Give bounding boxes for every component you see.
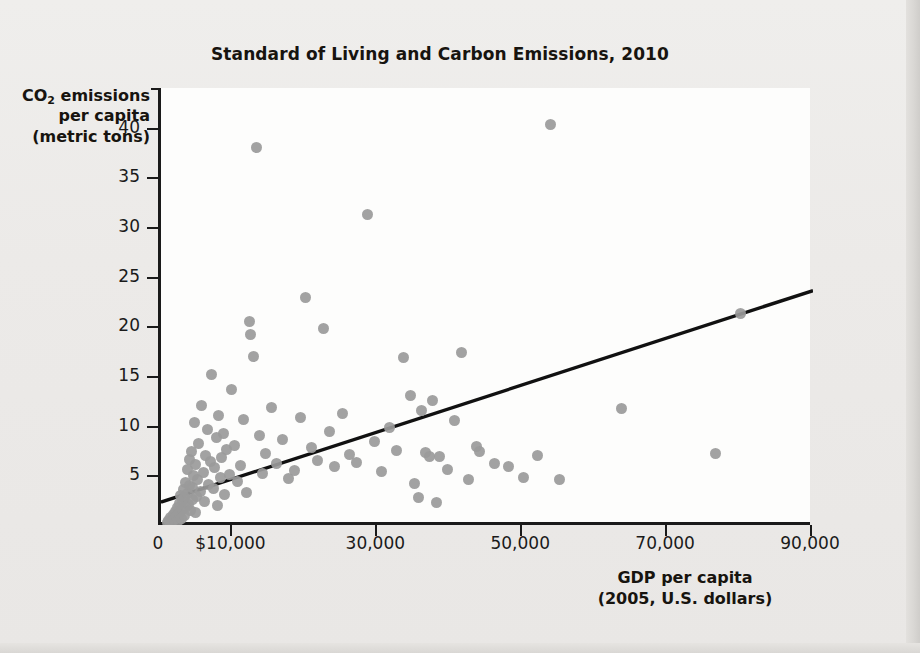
y-tick-mark: [147, 177, 158, 179]
scatter-point: [413, 492, 424, 503]
scatter-point: [213, 410, 224, 421]
scatter-point: [456, 347, 467, 358]
scatter-point: [226, 384, 237, 395]
scatter-point: [545, 119, 556, 130]
x-axis-title-line2: (2005, U.S. dollars): [598, 589, 773, 608]
scatter-point: [219, 489, 230, 500]
scatter-point: [289, 465, 300, 476]
scatter-point: [244, 316, 255, 327]
scatter-point: [518, 472, 529, 483]
scatter-point: [235, 460, 246, 471]
scatter-point: [245, 329, 256, 340]
scatter-point: [337, 408, 348, 419]
y-tick-mark: [147, 426, 158, 428]
x-tick-label: 50,000: [460, 533, 580, 553]
scatter-point: [229, 440, 240, 451]
scatter-point: [218, 428, 229, 439]
scatter-point: [398, 352, 409, 363]
scatter-point: [434, 451, 445, 462]
y-tick-label: 35: [96, 166, 140, 186]
x-tick-label: $10,000: [170, 533, 290, 553]
scatter-point: [362, 209, 373, 220]
scatter-point: [306, 442, 317, 453]
x-axis-title-line1: GDP per capita: [617, 568, 752, 587]
scatter-point: [189, 417, 200, 428]
chart-title: Standard of Living and Carbon Emissions,…: [0, 44, 880, 64]
scatter-point: [198, 467, 209, 478]
scatter-point: [324, 426, 335, 437]
co2-subscript: 2: [47, 94, 55, 107]
scatter-point: [503, 461, 514, 472]
scatter-point: [251, 142, 262, 153]
x-tick-label: 30,000: [315, 533, 435, 553]
scatter-point: [463, 474, 474, 485]
scatter-point: [616, 403, 627, 414]
scatter-point: [409, 478, 420, 489]
scatter-point: [384, 422, 395, 433]
scatter-point: [248, 351, 259, 362]
scatter-point: [449, 415, 460, 426]
scatter-point: [241, 487, 252, 498]
scatter-point: [442, 464, 453, 475]
y-tick-mark-minor: [151, 88, 158, 90]
y-tick-label: 30: [96, 216, 140, 236]
x-tick-label: 90,000: [750, 533, 870, 553]
y-tick-mark: [147, 326, 158, 328]
y-tick-label: 20: [96, 315, 140, 335]
page-edge-right: [906, 0, 920, 653]
scatter-point: [427, 395, 438, 406]
scatter-point: [391, 445, 402, 456]
scatter-point: [416, 405, 427, 416]
scatter-point: [376, 466, 387, 477]
scatter-point: [260, 448, 271, 459]
scatter-point: [266, 402, 277, 413]
scatter-point: [277, 434, 288, 445]
page-background: Standard of Living and Carbon Emissions,…: [0, 0, 920, 653]
x-tick-label: 70,000: [605, 533, 725, 553]
scatter-point: [735, 308, 746, 319]
scatter-point: [254, 430, 265, 441]
page-edge-bottom: [0, 643, 920, 653]
scatter-point: [351, 457, 362, 468]
scatter-point: [318, 323, 329, 334]
y-tick-label: 10: [96, 415, 140, 435]
plot-area: [158, 88, 810, 525]
scatter-point: [232, 476, 243, 487]
scatter-point: [710, 448, 721, 459]
scatter-point: [431, 497, 442, 508]
scatter-point: [489, 458, 500, 469]
scatter-point: [190, 507, 201, 518]
y-tick-label: 40: [96, 117, 140, 137]
scatter-point: [329, 461, 340, 472]
scatter-point: [474, 446, 485, 457]
y-tick-mark: [147, 475, 158, 477]
scatter-point: [532, 450, 543, 461]
y-tick-label: 5: [96, 464, 140, 484]
scatter-point: [212, 500, 223, 511]
scatter-point: [208, 483, 219, 494]
scatter-point: [257, 468, 268, 479]
scatter-point: [405, 390, 416, 401]
y-tick-label: 25: [96, 266, 140, 286]
scatter-point: [271, 458, 282, 469]
scatter-point: [196, 400, 207, 411]
scatter-point: [369, 436, 380, 447]
y-tick-mark: [147, 376, 158, 378]
y-axis-title-line1: CO2 emissions: [22, 86, 150, 105]
plot-canvas: [161, 88, 813, 525]
scatter-point: [238, 414, 249, 425]
scatter-point: [424, 451, 435, 462]
scatter-point: [206, 369, 217, 380]
trendline: [161, 88, 813, 525]
scatter-point: [300, 292, 311, 303]
y-tick-mark: [147, 277, 158, 279]
x-axis-title: GDP per capita (2005, U.S. dollars): [520, 568, 850, 610]
scatter-point: [554, 474, 565, 485]
y-tick-mark: [147, 227, 158, 229]
scatter-point: [295, 412, 306, 423]
y-tick-label: 15: [96, 365, 140, 385]
y-tick-mark: [147, 128, 158, 130]
scatter-point: [312, 455, 323, 466]
scatter-point: [199, 496, 210, 507]
scatter-point: [193, 438, 204, 449]
